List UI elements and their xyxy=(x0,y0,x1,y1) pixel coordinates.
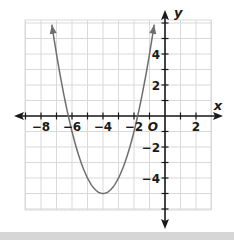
x-tick-label: 2 xyxy=(192,120,200,134)
x-tick-label: −4 xyxy=(94,120,112,134)
bottom-strip xyxy=(0,232,234,240)
x-tick-label: −2 xyxy=(125,120,143,134)
x-axis-label: x xyxy=(213,98,223,113)
y-tick-label: −2 xyxy=(142,141,160,155)
origin-label: O xyxy=(148,120,158,134)
x-tick-label: −8 xyxy=(32,120,50,134)
curve-left-arrow-icon xyxy=(50,25,57,34)
y-tick-label: 4 xyxy=(152,48,160,62)
curve-right-arrow-icon xyxy=(149,25,156,34)
y-tick-label: −4 xyxy=(142,172,160,186)
x-tick-label: −6 xyxy=(63,120,81,134)
y-axis-label: y xyxy=(174,5,183,20)
parabola-graph: −8−6−4−2242−2−4Oxy xyxy=(0,0,234,240)
coordinate-plane: −8−6−4−2242−2−4Oxy xyxy=(0,0,234,240)
y-tick-label: 2 xyxy=(152,79,160,93)
axis-labels: −8−6−4−2242−2−4Oxy xyxy=(32,5,223,186)
